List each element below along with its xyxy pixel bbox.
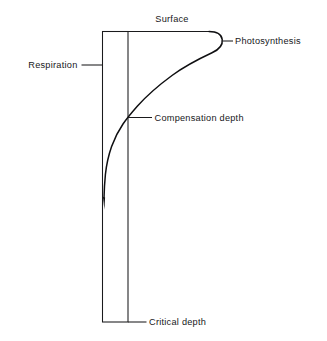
surface-label: Surface bbox=[155, 14, 188, 24]
diagram-canvas: Surface Photosynthesis Respiration Compe… bbox=[0, 0, 327, 341]
water-column-box bbox=[103, 32, 129, 323]
compensation-depth-label: Compensation depth bbox=[155, 113, 244, 123]
respiration-label: Respiration bbox=[28, 60, 77, 70]
photosynthesis-depth-diagram: Surface Photosynthesis Respiration Compe… bbox=[0, 0, 327, 341]
critical-depth-label: Critical depth bbox=[149, 317, 206, 327]
photosynthesis-label: Photosynthesis bbox=[235, 36, 301, 46]
